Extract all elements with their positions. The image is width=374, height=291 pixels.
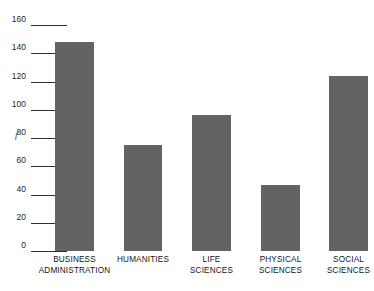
y-tick-label: 80 (17, 127, 26, 137)
y-tick-label: 20 (17, 212, 26, 222)
y-tick-label: 160 (12, 14, 26, 24)
y-tick-label: 140 (12, 42, 26, 52)
bar[interactable] (192, 115, 231, 251)
bar[interactable] (329, 76, 368, 251)
bar[interactable] (55, 42, 94, 251)
y-tick-label: 120 (12, 71, 26, 81)
y-tick-label: 100 (12, 99, 26, 109)
bar-chart: f 160140120100806040200 BUSINESS ADMINIS… (0, 0, 374, 291)
y-tick-label: 0 (21, 240, 26, 250)
x-axis-label: SOCIAL SCIENCES (294, 255, 374, 276)
y-tick-label: 60 (17, 155, 26, 165)
plot-area: 160140120100806040200 (31, 25, 367, 251)
y-tick-label: 40 (17, 184, 26, 194)
y-tick-line (31, 251, 67, 252)
y-tick-line (31, 25, 67, 26)
bar[interactable] (261, 185, 300, 251)
bar[interactable] (124, 145, 162, 251)
